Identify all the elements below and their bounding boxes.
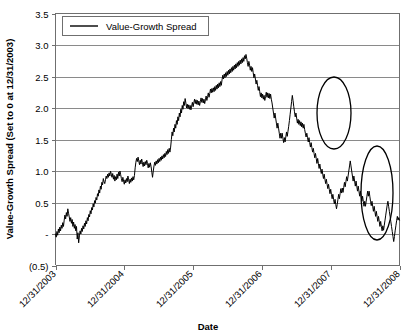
legend-label-value-growth-spread: Value-Growth Spread (106, 21, 197, 32)
data-series-group (56, 54, 400, 242)
x-tick-label-1: 12/31/2004 (85, 268, 126, 309)
highlight-ellipse-2 (361, 146, 393, 240)
x-axis-ticks: 12/31/200312/31/200412/31/200512/31/2006… (17, 266, 402, 310)
series-line-value-growth-spread (56, 54, 400, 242)
y-tick-label-8: (0.5) (29, 261, 49, 272)
x-tick-label-4: 12/31/2007 (292, 268, 333, 309)
highlight-ellipse-1 (317, 77, 351, 149)
y-tick-label-4: 1.5 (35, 135, 48, 146)
y-tick-label-6: 0.5 (35, 198, 48, 209)
x-tick-label-2: 12/31/2005 (154, 268, 195, 309)
value-growth-spread-chart: 3.53.02.52.01.51.00.5-(0.5) 12/31/200312… (0, 0, 411, 336)
chart-container: 3.53.02.52.01.51.00.5-(0.5) 12/31/200312… (0, 0, 411, 336)
x-tick-label-5: 12/31/2008 (361, 268, 402, 309)
y-axis-ticks: 3.53.02.52.01.51.00.5-(0.5) (29, 9, 56, 272)
y-tick-label-3: 2.0 (35, 103, 48, 114)
x-tick-label-0: 12/31/2003 (17, 268, 58, 309)
x-tick-label-3: 12/31/2006 (223, 268, 264, 309)
y-tick-label-5: 1.0 (35, 166, 48, 177)
chart-legend: Value-Growth Spread (63, 17, 209, 36)
y-tick-label-7: - (45, 229, 48, 240)
y-axis-title: Value-Growth Spread (Set to 0 at 12/31/2… (4, 39, 15, 240)
y-tick-label-1: 3.0 (35, 40, 48, 51)
y-tick-label-0: 3.5 (35, 9, 48, 20)
y-tick-label-2: 2.5 (35, 72, 48, 83)
x-axis-title: Date (198, 321, 219, 332)
annotations-group (317, 77, 393, 240)
